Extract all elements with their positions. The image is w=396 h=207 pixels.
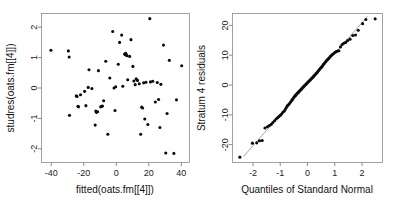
data-point xyxy=(68,55,71,58)
data-point xyxy=(148,17,151,20)
data-point xyxy=(132,79,135,82)
data-point xyxy=(261,139,264,142)
data-point xyxy=(146,123,149,126)
y-tick-label: 0 xyxy=(220,83,230,88)
data-point xyxy=(166,112,169,115)
right-y-axis-ticks: -20-1001020 xyxy=(220,20,233,151)
data-point xyxy=(154,100,157,103)
x-tick-label: 0 xyxy=(305,168,310,178)
data-point xyxy=(180,64,183,67)
data-point xyxy=(251,142,254,145)
data-point xyxy=(77,105,80,108)
data-point xyxy=(96,110,99,113)
data-point xyxy=(258,139,261,142)
y-tick-label: 2 xyxy=(29,25,39,30)
right-x-axis-title: Quantiles of Standard Normal xyxy=(241,184,373,195)
data-point xyxy=(138,82,141,85)
data-point xyxy=(108,76,111,79)
x-tick-label: 0 xyxy=(114,168,119,178)
data-point xyxy=(101,104,104,107)
data-point xyxy=(114,85,117,88)
data-point xyxy=(141,107,144,110)
x-tick-label: 20 xyxy=(144,168,154,178)
two-panel-diagnostic-plot: -40-2002040 -2-1012 fitted(oats.fm[[4]])… xyxy=(0,0,396,207)
data-point xyxy=(104,60,107,63)
right-x-axis-ticks: -2-1012 xyxy=(249,163,365,178)
data-point xyxy=(151,80,154,83)
data-point xyxy=(374,17,377,20)
data-point xyxy=(162,44,165,47)
y-tick-label: -2 xyxy=(29,145,39,153)
data-point xyxy=(49,49,52,52)
data-point xyxy=(134,83,137,86)
data-point xyxy=(357,29,360,32)
y-tick-label: -20 xyxy=(220,138,230,151)
data-point xyxy=(118,41,121,44)
left-scatter-points xyxy=(49,17,183,155)
data-point xyxy=(143,117,146,120)
x-tick-label: -20 xyxy=(77,168,90,178)
data-point xyxy=(172,152,175,155)
residuals-vs-fitted-panel: -40-2002040 -2-1012 fitted(oats.fm[[4]])… xyxy=(5,14,190,196)
data-point xyxy=(156,81,159,84)
data-point xyxy=(354,33,357,36)
data-point xyxy=(83,90,86,93)
data-point xyxy=(351,34,354,37)
data-point xyxy=(128,55,131,58)
data-point xyxy=(87,68,90,71)
data-point xyxy=(144,81,147,84)
y-tick-label: 20 xyxy=(220,20,230,30)
left-y-axis-ticks: -2-1012 xyxy=(29,25,42,153)
y-tick-label: 10 xyxy=(220,50,230,60)
data-point xyxy=(159,83,162,86)
data-point xyxy=(113,109,116,112)
data-point xyxy=(67,49,70,52)
right-scatter-points xyxy=(238,17,376,158)
data-point xyxy=(238,156,241,159)
left-y-axis-title: studres(oats.fm[[4]]) xyxy=(5,44,16,133)
data-point xyxy=(129,38,132,41)
data-point xyxy=(90,87,93,90)
data-point xyxy=(337,49,340,52)
data-point xyxy=(94,124,97,127)
data-point xyxy=(157,98,160,101)
data-point xyxy=(126,54,129,57)
data-point xyxy=(126,78,129,81)
x-tick-label: 1 xyxy=(332,168,337,178)
data-point xyxy=(361,22,364,25)
data-point xyxy=(131,65,134,68)
y-tick-label: -1 xyxy=(29,114,39,122)
data-point xyxy=(349,38,352,41)
y-tick-label: -10 xyxy=(220,108,230,121)
data-point xyxy=(84,104,87,107)
data-point xyxy=(136,79,139,82)
y-tick-label: 0 xyxy=(29,85,39,90)
data-point xyxy=(364,18,367,21)
left-x-axis-ticks: -40-2002040 xyxy=(45,163,187,178)
data-point xyxy=(139,133,142,136)
data-point xyxy=(97,69,100,72)
y-tick-label: 1 xyxy=(29,55,39,60)
normal-qq-panel: -2-1012 -20-1001020 Quantiles of Standar… xyxy=(196,14,383,196)
data-point xyxy=(121,85,124,88)
data-point xyxy=(158,126,161,129)
left-x-axis-title: fitted(oats.fm[[4]]) xyxy=(76,184,154,195)
data-point xyxy=(102,99,105,102)
data-point xyxy=(68,114,71,117)
x-tick-label: 40 xyxy=(176,168,186,178)
right-plot-frame xyxy=(233,14,383,163)
data-point xyxy=(76,95,79,98)
data-point xyxy=(106,133,109,136)
data-point xyxy=(111,30,114,33)
x-tick-label: -2 xyxy=(249,168,257,178)
x-tick-label: -1 xyxy=(276,168,284,178)
data-point xyxy=(164,152,167,155)
data-point xyxy=(175,98,178,101)
x-tick-label: -40 xyxy=(45,168,58,178)
figure-panel-container: -40-2002040 -2-1012 fitted(oats.fm[[4]])… xyxy=(0,0,396,207)
data-point xyxy=(120,34,123,37)
data-point xyxy=(168,59,171,62)
data-point xyxy=(87,86,90,89)
x-tick-label: 2 xyxy=(360,168,365,178)
right-y-axis-title: Stratum 4 residuals xyxy=(196,45,207,131)
